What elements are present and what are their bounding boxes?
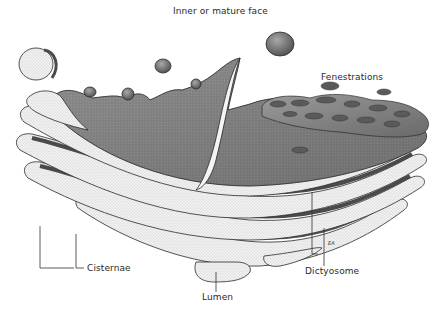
lumen-bulge	[195, 262, 250, 282]
vesicle-mid	[155, 59, 171, 73]
label-fenestrations: Fenestrations	[321, 72, 383, 82]
budding-vesicle	[122, 88, 134, 100]
label-inner-mature-face: Inner or mature face	[173, 6, 268, 16]
vesicles	[19, 32, 294, 97]
label-dictyosome: Dictyosome	[305, 266, 359, 276]
golgi-illustration	[0, 0, 441, 314]
cisternae-leader	[40, 226, 84, 268]
vesicle-small	[84, 87, 96, 97]
label-lumen: Lumen	[202, 292, 233, 302]
vesicle-top	[266, 32, 294, 56]
artist-signature: EA	[328, 240, 335, 246]
label-cisternae: Cisternae	[87, 263, 131, 273]
large-vesicle-left	[19, 48, 53, 80]
